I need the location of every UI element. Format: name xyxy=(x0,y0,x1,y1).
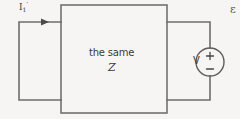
left-wire-loop xyxy=(19,22,61,100)
current-label-prime: ′ xyxy=(26,1,28,9)
current-arrow-head xyxy=(41,19,49,26)
voltage-source xyxy=(196,48,224,76)
impedance-box xyxy=(61,5,167,113)
circuit-schematic-svg xyxy=(0,0,240,119)
right-wire-loop xyxy=(167,22,210,100)
circuit-diagram-canvas: I1′ the same Z V ε xyxy=(0,0,240,119)
impedance-box-label-primary: the same xyxy=(89,48,134,58)
corner-partial-label: ε xyxy=(230,4,236,15)
left-loop-path xyxy=(19,22,61,100)
current-arrow xyxy=(41,19,49,26)
impedance-box-label-symbol: Z xyxy=(108,62,116,73)
right-loop-top-path xyxy=(167,22,210,48)
voltage-source-label: V xyxy=(193,56,200,66)
impedance-box-rect xyxy=(61,5,167,113)
current-label: I1′ xyxy=(19,2,28,13)
right-loop-bottom-path xyxy=(167,76,210,100)
